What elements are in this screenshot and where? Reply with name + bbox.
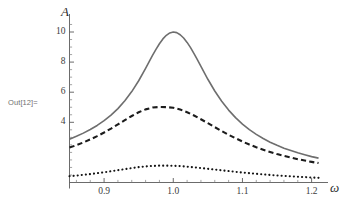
x-tick-label: 1.1	[228, 186, 256, 196]
x-tick-label: 0.9	[90, 186, 118, 196]
axes	[70, 14, 329, 189]
y-tick-label: 10	[46, 26, 66, 36]
y-axis-label: A	[61, 4, 69, 20]
y-tick-label: 8	[46, 56, 66, 66]
x-tick-label: 1.2	[298, 186, 326, 196]
series-dotted	[70, 166, 319, 178]
y-tick-label: 6	[46, 86, 66, 96]
x-tick-label: 1.0	[159, 186, 187, 196]
series-dashed	[70, 107, 319, 163]
series-solid	[70, 32, 319, 158]
x-axis-label: ω	[330, 180, 339, 196]
y-tick-label: 4	[46, 116, 66, 126]
output-cell: Out[12]= A ω 468100.91.01.11.2	[0, 0, 354, 210]
